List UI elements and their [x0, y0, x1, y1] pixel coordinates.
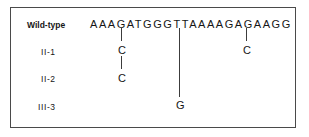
sequence-variant-figure: Wild-type AAAGATGGGTTAAAAGAGAAGG II-1 C …: [0, 0, 309, 137]
figure-frame: Wild-type AAAGATGGGTTAAAAGAGAAGG II-1 C …: [10, 7, 296, 128]
mutation-ii-1-pos18: C: [243, 44, 251, 56]
mutation-ii-1-pos5: C: [118, 44, 126, 56]
row-label-ii-1: II-1: [41, 47, 56, 57]
row-label-wild-type: Wild-type: [27, 20, 65, 30]
tick-pos11-wildtype-to-III3: [179, 28, 180, 97]
mutation-iii-3-pos11: G: [176, 99, 185, 111]
tick-pos5-II1-to-II2: [121, 56, 122, 69]
row-label-iii-3: III-3: [38, 102, 56, 112]
mutation-ii-2-pos5: C: [118, 72, 126, 84]
row-label-ii-2: II-2: [41, 74, 56, 84]
wild-type-sequence: AAAGATGGGTTAAAAGAGAAGG: [90, 18, 292, 30]
